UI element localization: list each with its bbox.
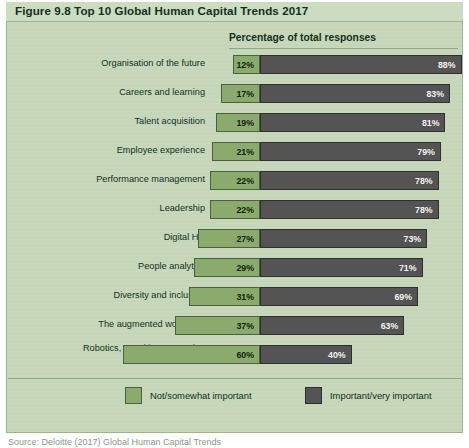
bar-row-label: Leadership [15, 203, 205, 214]
bar-value-label: 22% [236, 176, 254, 186]
bar-value-label: 88% [438, 60, 456, 70]
bar-row: Digital HR27%73% [7, 226, 462, 254]
bar-segment-important-very-important: 88% [260, 55, 462, 74]
bar-segment-not-somewhat-important: 31% [189, 287, 260, 306]
bar-segment-important-very-important: 73% [260, 229, 427, 248]
bar-value-label: 31% [236, 292, 254, 302]
bar-segment-important-very-important: 69% [260, 287, 418, 306]
axis-header-label: Percentage of total responses [229, 32, 376, 43]
bar-segment-important-very-important: 79% [260, 142, 441, 161]
bar-row-label: Organisation of the future [15, 58, 205, 69]
bar-segment-not-somewhat-important: 17% [221, 84, 260, 103]
bar-segment-important-very-important: 78% [260, 171, 439, 190]
bar-row: Leadership22%78% [7, 197, 462, 225]
bar-value-label: 79% [417, 147, 435, 157]
bar-segment-not-somewhat-important: 19% [216, 113, 260, 132]
bar-value-label: 17% [236, 89, 254, 99]
bar-value-label: 78% [415, 176, 433, 186]
bar-segment-not-somewhat-important: 22% [210, 171, 260, 190]
bar-row: Organisation of the future12%88% [7, 52, 462, 80]
bar-row-label: People analytics [15, 261, 205, 272]
bar-row-label: Performance management [15, 174, 205, 185]
bar-segment-important-very-important: 81% [260, 113, 445, 132]
bar-row-label: Employee experience [15, 145, 205, 156]
bar-value-label: 27% [236, 234, 254, 244]
bar-segment-important-very-important: 40% [260, 345, 352, 364]
bar-value-label: 37% [236, 321, 254, 331]
bar-segment-important-very-important: 71% [260, 258, 423, 277]
bar-row: People analytics29%71% [7, 255, 462, 283]
bar-value-label: 12% [236, 60, 254, 70]
legend-item-important-very-important: Important/very important [305, 382, 432, 408]
bar-row-label: Diversity and inclusion [15, 290, 205, 301]
bar-row: Careers and learning17%83% [7, 81, 462, 109]
bar-row: Talent acquisition19%81% [7, 110, 462, 138]
bar-value-label: 19% [236, 118, 254, 128]
bar-row: Diversity and inclusion31%69% [7, 284, 462, 312]
bar-value-label: 63% [381, 321, 399, 331]
bar-segment-not-somewhat-important: 27% [198, 229, 260, 248]
bar-value-label: 71% [399, 263, 417, 273]
bar-value-label: 78% [415, 205, 433, 215]
bar-segment-not-somewhat-important: 12% [233, 55, 260, 74]
bar-row-label: Talent acquisition [15, 116, 205, 127]
bar-segment-not-somewhat-important: 29% [194, 258, 260, 277]
bar-value-label: 22% [236, 205, 254, 215]
bar-row-label: Careers and learning [15, 87, 205, 98]
chart-panel: Percentage of total responses Organisati… [6, 21, 463, 433]
figure-root: Figure 9.8 Top 10 Global Human Capital T… [0, 0, 469, 448]
legend-label-important-very-important: Important/very important [330, 390, 432, 401]
bar-value-label: 60% [236, 350, 254, 360]
bar-value-label: 69% [394, 292, 412, 302]
axis-header-rule [229, 48, 458, 49]
bar-value-label: 73% [404, 234, 422, 244]
bar-row-label: Digital HR [15, 232, 205, 243]
bar-value-label: 21% [236, 147, 254, 157]
legend-label-not-somewhat-important: Not/somewhat important [150, 390, 252, 401]
bar-row: Employee experience21%79% [7, 139, 462, 167]
bar-segment-not-somewhat-important: 22% [210, 200, 260, 219]
legend-swatch-green-icon [125, 387, 142, 404]
bar-segment-important-very-important: 63% [260, 316, 404, 335]
bar-value-label: 29% [236, 263, 254, 273]
figure-title: Figure 9.8 Top 10 Global Human Capital T… [15, 4, 308, 17]
bar-value-label: 83% [426, 89, 444, 99]
bar-segment-not-somewhat-important: 60% [123, 345, 260, 364]
bar-value-label: 40% [328, 350, 346, 360]
legend-swatch-grey-icon [305, 387, 322, 404]
bar-segment-not-somewhat-important: 37% [175, 316, 260, 335]
bar-segment-important-very-important: 83% [260, 84, 450, 103]
legend-item-not-somewhat-important: Not/somewhat important [125, 382, 252, 408]
bar-value-label: 81% [422, 118, 440, 128]
bar-segment-not-somewhat-important: 21% [212, 142, 260, 161]
legend-divider [8, 378, 461, 379]
bar-segment-important-very-important: 78% [260, 200, 439, 219]
plot-area: Organisation of the future12%88%Careers … [7, 52, 462, 377]
chart-legend: Not/somewhat important Important/very im… [7, 382, 462, 412]
bar-row: The augmented workforce37%63% [7, 313, 462, 341]
bar-row: Performance management22%78% [7, 168, 462, 196]
figure-source: Source: Deloitte (2017) Global Human Cap… [8, 437, 448, 447]
figure-title-band: Figure 9.8 Top 10 Global Human Capital T… [6, 2, 463, 21]
bar-row: Robotics, cognitive computing and AI60%4… [7, 342, 462, 370]
